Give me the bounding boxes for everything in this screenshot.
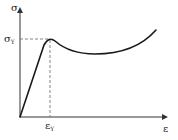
yield-stress-subscript: Y xyxy=(11,38,15,45)
x-axis-arrow-icon xyxy=(162,114,168,120)
y-axis xyxy=(17,7,23,117)
stress-strain-diagram xyxy=(0,0,178,140)
yield-stress-symbol: σ xyxy=(4,33,11,44)
stress-strain-curve xyxy=(20,30,156,117)
yield-stress-label: σY xyxy=(4,34,15,45)
y-axis-label: σ xyxy=(11,3,18,13)
yield-strain-subscript: Y xyxy=(50,125,54,132)
x-axis xyxy=(20,114,168,120)
yield-strain-label: εY xyxy=(45,121,54,132)
x-axis-label: ε xyxy=(163,124,168,134)
